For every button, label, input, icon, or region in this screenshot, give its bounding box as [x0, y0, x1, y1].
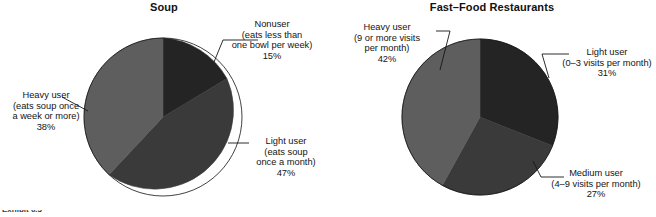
- pie-label-name: Light user: [266, 136, 307, 146]
- pie-label-percent: 47%: [245, 168, 327, 179]
- pie-chart-figure: Soup Nonuser (eats less than: [0, 0, 656, 217]
- pie-label-soup-light[interactable]: Light user (eats soup once a month) 47%: [245, 136, 327, 178]
- pie-label-detail-1: (eats soup: [264, 147, 307, 157]
- pie-label-detail-2: per month): [365, 43, 410, 53]
- chart-fastfood: Fast–Food Restaurants Heavy user (9: [328, 0, 656, 217]
- pie-label-name: Medium user: [569, 168, 623, 178]
- pie-label-percent: 31%: [558, 68, 656, 79]
- chart-soup: Soup Nonuser (eats less than: [0, 0, 328, 217]
- pie-label-fastfood-heavy[interactable]: Heavy user (9 or more visits per month) …: [332, 22, 442, 64]
- pie-label-soup-heavy[interactable]: Heavy user (eats soup once a week or mor…: [2, 90, 90, 132]
- pie-label-fastfood-light[interactable]: Light user (0–3 visits per month) 31%: [558, 47, 656, 79]
- figure-caption-text: Exhibit 6.3: [2, 210, 122, 214]
- pie-label-detail-1: (9 or more visits: [354, 33, 420, 43]
- pie-label-name: Heavy user: [22, 90, 69, 100]
- pie-label-detail-1: (eats less than: [242, 30, 302, 40]
- figure-caption-cropped: Exhibit 6.3: [2, 210, 122, 217]
- pie-label-percent: 42%: [332, 54, 442, 65]
- pie-label-detail-2: one bowl per week): [232, 40, 313, 50]
- pie-label-percent: 15%: [218, 51, 326, 62]
- pie-label-soup-nonuser[interactable]: Nonuser (eats less than one bowl per wee…: [218, 19, 326, 61]
- pie-label-name: Heavy user: [363, 22, 410, 32]
- pie-label-detail-2: once a month): [256, 157, 315, 167]
- pie-label-percent: 27%: [536, 189, 656, 200]
- pie-label-fastfood-medium[interactable]: Medium user (4–9 visits per month) 27%: [536, 168, 656, 200]
- pie-label-detail-2: a week or more): [12, 111, 79, 121]
- pie-label-percent: 38%: [2, 122, 90, 133]
- pie-label-name: Nonuser: [254, 19, 289, 29]
- pie-label-detail-1: (0–3 visits per month): [562, 58, 651, 68]
- pie-label-name: Light user: [587, 47, 628, 57]
- pie-label-detail-1: (4–9 visits per month): [551, 179, 640, 189]
- pie-label-detail-1: (eats soup once: [13, 101, 79, 111]
